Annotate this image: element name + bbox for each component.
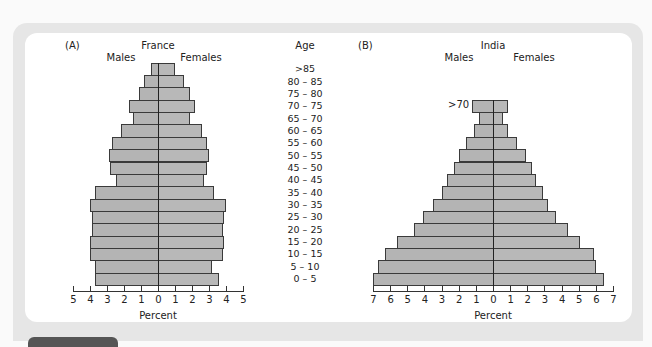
male-bar <box>397 236 494 249</box>
x-tick <box>141 286 142 292</box>
female-bar <box>158 186 214 199</box>
x-tick <box>596 286 597 292</box>
x-tick <box>579 286 580 292</box>
x-tick <box>192 286 193 292</box>
male-bar <box>385 248 494 261</box>
panel-b-males-label: Males <box>445 52 474 64</box>
age-label: 25 – 30 <box>288 211 323 223</box>
panel-a-title: France <box>141 40 174 52</box>
male-bar <box>459 149 494 162</box>
female-bar <box>493 260 596 273</box>
age-label: >85 <box>295 63 315 75</box>
male-bar <box>129 100 159 113</box>
male-bar <box>423 211 494 224</box>
x-tick <box>544 286 545 292</box>
center-line <box>158 63 159 291</box>
x-tick-label: 4 <box>422 294 428 306</box>
male-bar <box>378 260 494 273</box>
female-bar <box>493 211 556 224</box>
male-bar <box>110 162 159 175</box>
x-tick <box>493 286 494 292</box>
female-bar <box>158 273 219 286</box>
x-tick-label: 2 <box>456 294 462 306</box>
male-bar <box>479 112 494 125</box>
male-bar <box>454 162 494 175</box>
age-label: 5 – 10 <box>291 261 320 273</box>
x-tick-label: 3 <box>542 294 548 306</box>
female-bar <box>493 248 594 261</box>
x-tick <box>424 286 425 292</box>
x-tick <box>613 286 614 292</box>
x-tick <box>124 286 125 292</box>
x-tick <box>527 286 528 292</box>
panel-a-females-label: Females <box>180 52 221 64</box>
age-label: 0 – 5 <box>294 273 317 285</box>
x-tick-label: 1 <box>507 294 513 306</box>
female-bar <box>493 186 543 199</box>
age-label: 75 – 80 <box>288 88 323 100</box>
female-bar <box>493 124 508 137</box>
x-tick-label: 6 <box>593 294 599 306</box>
male-bar <box>133 112 160 125</box>
male-bar <box>90 236 159 249</box>
x-tick-label: 2 <box>525 294 531 306</box>
female-bar <box>493 199 548 212</box>
female-bar <box>158 112 190 125</box>
age-label: 45 – 50 <box>288 162 323 174</box>
panel-a-males-label: Males <box>107 52 136 64</box>
age-label: 35 – 40 <box>288 187 323 199</box>
x-tick-label: 1 <box>172 294 178 306</box>
female-bar <box>493 112 503 125</box>
x-tick-label: 4 <box>223 294 229 306</box>
panel-b-title: India <box>481 40 506 52</box>
x-tick <box>407 286 408 292</box>
panel-b-xlabel: Percent <box>474 310 512 322</box>
female-bar <box>493 273 604 286</box>
x-tick-label: 4 <box>87 294 93 306</box>
female-bar <box>158 162 207 175</box>
female-bar <box>158 174 204 187</box>
panel-b-females-label: Females <box>513 52 554 64</box>
age-label: 50 – 55 <box>288 150 323 162</box>
age-label: 15 – 20 <box>288 236 323 248</box>
x-tick-label: 1 <box>473 294 479 306</box>
male-bar <box>414 223 494 236</box>
center-line <box>493 100 494 291</box>
x-tick-label: 5 <box>576 294 582 306</box>
x-tick <box>510 286 511 292</box>
x-tick <box>73 286 74 292</box>
x-tick <box>90 286 91 292</box>
male-bar <box>109 149 159 162</box>
age-label: 40 – 45 <box>288 174 323 186</box>
age-label: 20 – 25 <box>288 224 323 236</box>
x-tick-label: 2 <box>121 294 127 306</box>
female-bar <box>158 75 184 88</box>
female-bar <box>493 174 536 187</box>
male-bar <box>144 75 159 88</box>
male-bar <box>447 174 494 187</box>
x-tick <box>373 286 374 292</box>
age-label: 60 – 65 <box>288 125 323 137</box>
x-tick <box>476 286 477 292</box>
x-tick-label: 1 <box>138 294 144 306</box>
female-bar <box>493 236 580 249</box>
x-tick-label: 5 <box>405 294 411 306</box>
female-bar <box>158 137 207 150</box>
male-bar <box>95 273 159 286</box>
female-bar <box>158 211 224 224</box>
x-tick <box>562 286 563 292</box>
male-bar <box>92 223 159 236</box>
figure-tab <box>28 337 118 347</box>
male-bar <box>90 248 159 261</box>
x-tick <box>226 286 227 292</box>
female-bar <box>158 248 223 261</box>
x-tick <box>158 286 159 292</box>
age-label: 70 – 75 <box>288 100 323 112</box>
male-bar <box>95 260 159 273</box>
male-bar <box>472 100 494 113</box>
female-bar <box>493 100 508 113</box>
x-tick-label: 4 <box>559 294 565 306</box>
male-bar <box>95 186 159 199</box>
x-tick-label: 2 <box>189 294 195 306</box>
x-tick-label: 3 <box>439 294 445 306</box>
